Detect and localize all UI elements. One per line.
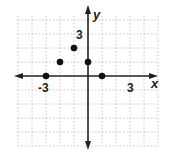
data-point (57, 59, 64, 66)
coordinate-plane (0, 0, 169, 154)
data-point (85, 59, 92, 66)
data-point (71, 45, 78, 52)
axes (14, 5, 158, 150)
data-point (99, 73, 106, 80)
x-tick-label-3: 3 (127, 82, 134, 94)
x-tick-label-neg3: -3 (38, 82, 49, 94)
y-axis-label: y (93, 8, 100, 21)
data-point (43, 73, 50, 80)
y-tick-label-3: 3 (76, 29, 83, 41)
x-axis-label: x (151, 77, 158, 90)
